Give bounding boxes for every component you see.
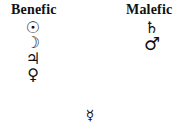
mars-icon: ♂ <box>140 36 164 52</box>
benefic-heading: Benefic <box>11 2 57 18</box>
malefic-heading: Malefic <box>126 2 172 18</box>
venus-icon: ♀ <box>21 67 45 83</box>
mercury-icon: ☿ <box>78 107 102 123</box>
